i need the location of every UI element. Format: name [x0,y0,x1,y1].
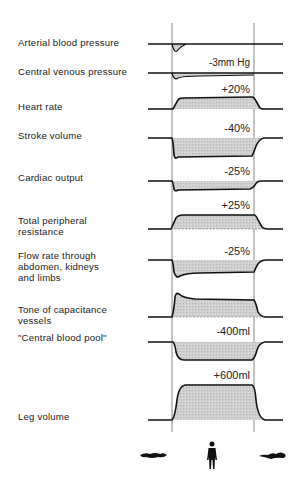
value-flow-rate: -25% [170,245,250,257]
label-line: Total peripheral [18,215,87,226]
trace-flow-rate [148,260,283,277]
label-line: resistance [18,226,87,237]
trace-stroke-volume [148,138,283,158]
trace-leg-volume [148,385,283,420]
value-cvp: -3mm Hg [170,57,250,68]
label-heart-rate: Heart rate [18,101,63,112]
trace-central-blood-pool [148,342,283,360]
value-stroke-volume: -40% [170,122,250,134]
label-leg-volume: Leg volume [18,411,70,422]
trace-total-peripheral-resistance [148,215,283,229]
standing-person-icon [207,442,217,470]
label-central-blood-pool: "Central blood pool" [18,332,107,343]
trace-cardiac-output [148,181,283,191]
label-arterial-blood-pressure: Arterial blood pressure [18,37,119,48]
label-line: and limbs [18,272,99,283]
label-flow-rate: Flow rate through abdomen, kidneys and l… [18,250,99,283]
lying-person-icon [140,453,167,458]
label-line: abdomen, kidneys [18,261,99,272]
label-line: Flow rate through [18,250,99,261]
trace-heart-rate [148,97,283,109]
lying-person-icon [259,453,286,460]
value-central-blood-pool: -400ml [170,325,250,337]
label-central-venous-pressure: Central venous pressure [18,66,127,77]
value-cardiac-output: -25% [170,165,250,177]
label-stroke-volume: Stroke volume [18,130,82,141]
value-leg-volume: +600ml [170,369,250,381]
label-cardiac-output: Cardiac output [18,172,83,183]
trace-central-venous-pressure [148,73,283,79]
label-line: vessels [18,315,107,326]
label-capacitance-tone: Tone of capacitance vessels [18,304,107,326]
label-line: Tone of capacitance [18,304,107,315]
value-tpr: +25% [170,199,250,211]
label-total-peripheral-resistance: Total peripheral resistance [18,215,87,237]
value-heart-rate: +20% [170,83,250,95]
trace-arterial-bp [148,44,283,51]
trace-capacitance-tone [148,293,283,317]
